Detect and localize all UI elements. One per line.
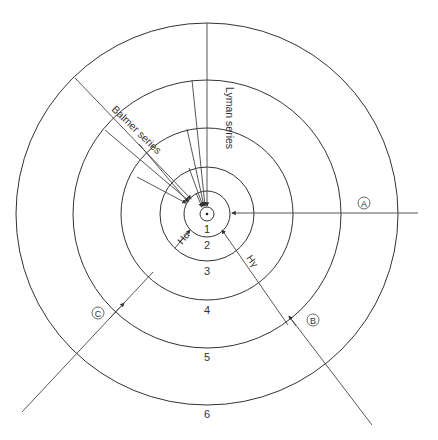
level-label-5: 5 [204,351,210,363]
level-label-3: 3 [204,265,210,277]
path-c-arrow [110,303,124,318]
level-label-2: 2 [204,239,210,251]
balmer-series-lines [75,78,191,203]
h-gamma-label: Hγ [244,253,260,269]
path-b-line [292,320,372,425]
nucleus [206,213,209,216]
h-alpha-label: Hα [175,229,192,246]
svg-text:B: B [310,316,316,326]
marker-c: C [92,307,104,319]
svg-text:C: C [95,309,102,319]
marker-a: A [358,197,370,209]
level-labels: 1 2 3 4 5 6 [204,223,210,420]
path-c-line [22,272,153,412]
h-gamma-arrow [222,230,288,325]
svg-text:A: A [361,199,367,209]
marker-b: B [307,314,319,326]
lyman-series-lines [187,23,207,207]
balmer-series-label: Balmer series [110,103,165,156]
bohr-model-diagram: 1 2 3 4 5 6 Lyman series Balmer series H… [0,0,438,440]
level-label-6: 6 [204,408,210,420]
level-label-1: 1 [204,223,210,235]
level-label-4: 4 [204,304,210,316]
lyman-series-label: Lyman series [224,87,236,149]
